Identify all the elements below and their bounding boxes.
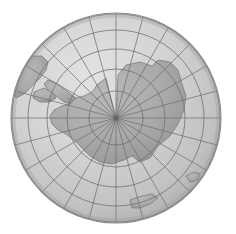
south-pole-marker — [112, 114, 120, 122]
globe-map — [0, 0, 236, 234]
globe-figure — [0, 0, 236, 234]
